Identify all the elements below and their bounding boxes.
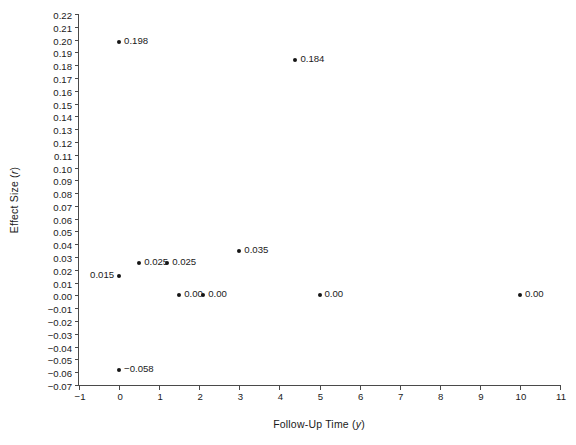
y-axis-tick: −0.05 — [75, 359, 79, 360]
y-axis-tick: 0.07 — [75, 206, 79, 207]
x-axis-tick: 0 — [119, 385, 120, 390]
y-axis-tick: 0.16 — [75, 91, 79, 92]
y-axis-tick-label: 0.08 — [53, 189, 72, 200]
x-axis-tick-label: 6 — [358, 391, 363, 402]
x-axis-tick-label: 0 — [117, 391, 122, 402]
data-point-marker — [237, 249, 241, 253]
y-axis-tick-label: 0.12 — [53, 137, 72, 148]
y-axis-tick: −0.06 — [75, 372, 79, 373]
x-axis-tick: −1 — [79, 385, 80, 390]
y-axis-tick: −0.02 — [75, 321, 79, 322]
y-axis-tick-label: −0.05 — [48, 355, 72, 366]
y-axis-tick-label: 0.02 — [53, 265, 72, 276]
y-axis-tick-label: 0.18 — [53, 61, 72, 72]
y-axis-tick-label: −0.03 — [48, 329, 72, 340]
y-axis-tick: −0.04 — [75, 347, 79, 348]
y-axis-title-symbol: r — [8, 170, 20, 174]
data-point-marker — [165, 261, 169, 265]
y-axis-tick-label: 0.15 — [53, 99, 72, 110]
data-point-marker — [117, 274, 121, 278]
y-axis-tick: 0.08 — [75, 193, 79, 194]
y-axis-tick: 0.11 — [75, 155, 79, 156]
y-axis-tick: 0.02 — [75, 270, 79, 271]
x-axis-title-tail: ) — [361, 418, 365, 430]
y-axis-tick: 0.19 — [75, 52, 79, 53]
x-axis-tick-label: 1 — [157, 391, 162, 402]
x-axis-tick: 11 — [560, 385, 561, 390]
y-axis-tick-label: 0.14 — [53, 112, 72, 123]
y-axis-tick: 0.20 — [75, 40, 79, 41]
data-point-marker — [201, 293, 205, 297]
y-axis-tick-label: 0.05 — [53, 227, 72, 238]
x-axis-title: Follow-Up Time (y) — [78, 418, 560, 430]
x-axis-tick: 8 — [440, 385, 441, 390]
y-axis-tick-label: 0.20 — [53, 35, 72, 46]
plot-area: 0.220.210.200.190.180.170.160.150.140.13… — [78, 14, 560, 386]
x-axis-tick: 4 — [279, 385, 280, 390]
y-axis-title-tail: ) — [8, 167, 20, 171]
data-point-label: 0.035 — [244, 244, 268, 255]
data-point-marker — [117, 368, 121, 372]
x-axis-tick: 9 — [480, 385, 481, 390]
data-point-label: 0.198 — [124, 35, 148, 46]
x-axis-tick: 3 — [239, 385, 240, 390]
data-point-marker — [137, 261, 141, 265]
y-axis-tick: 0.22 — [75, 14, 79, 15]
y-axis-tick: 0.03 — [75, 257, 79, 258]
data-point-marker — [177, 293, 181, 297]
y-axis-tick-label: −0.02 — [48, 317, 72, 328]
data-point-marker — [117, 40, 121, 44]
y-axis-title: Effect Size (r) — [0, 0, 28, 400]
x-axis-tick: 2 — [199, 385, 200, 390]
y-axis-title-text: Effect Size ( — [8, 174, 20, 233]
data-point-label: 0.00 — [525, 288, 544, 299]
y-axis-tick: 0.14 — [75, 116, 79, 117]
y-axis-tick-label: 0.07 — [53, 201, 72, 212]
y-axis-tick-label: 0.22 — [53, 10, 72, 21]
y-axis-tick-label: 0.00 — [53, 291, 72, 302]
x-axis-tick-label: 4 — [278, 391, 283, 402]
data-point-label: 0.00 — [208, 288, 227, 299]
y-axis-tick-label: −0.07 — [48, 381, 72, 392]
x-axis-tick: 5 — [320, 385, 321, 390]
x-axis-tick-label: 9 — [478, 391, 483, 402]
y-axis-tick-label: 0.13 — [53, 125, 72, 136]
y-axis-tick-label: 0.06 — [53, 214, 72, 225]
data-point-label: 0.015 — [90, 269, 114, 280]
y-axis-tick-label: 0.03 — [53, 253, 72, 264]
x-axis-title-text: Follow-Up Time ( — [273, 418, 356, 430]
data-point-label: 0.184 — [300, 53, 324, 64]
y-axis-tick: 0.10 — [75, 168, 79, 169]
y-axis-tick: 0.21 — [75, 27, 79, 28]
y-axis-tick: 0.17 — [75, 78, 79, 79]
y-axis-tick-label: 0.11 — [54, 150, 72, 161]
y-axis-tick-label: −0.06 — [48, 368, 72, 379]
x-axis-tick-label: 11 — [556, 391, 566, 402]
y-axis-tick: 0.15 — [75, 104, 79, 105]
y-axis-tick: −0.03 — [75, 334, 79, 335]
x-axis-tick-label: 3 — [238, 391, 243, 402]
scatter-plot-figure: Effect Size (r) 0.220.210.200.190.180.17… — [0, 0, 576, 445]
y-axis-tick: 0.06 — [75, 219, 79, 220]
y-axis-tick-label: 0.04 — [53, 240, 72, 251]
x-axis-tick-label: 8 — [438, 391, 443, 402]
y-axis-tick: 0.18 — [75, 65, 79, 66]
x-axis-tick-label: 10 — [516, 391, 527, 402]
x-axis-tick: 10 — [520, 385, 521, 390]
x-axis-tick-label: −1 — [75, 391, 86, 402]
y-axis-tick: 0.12 — [75, 142, 79, 143]
data-point-label: −0.058 — [124, 363, 154, 374]
x-axis-tick-label: 2 — [198, 391, 203, 402]
y-axis-tick: −0.01 — [75, 308, 79, 309]
y-axis-tick: 0.00 — [75, 295, 79, 296]
y-axis-tick-label: 0.01 — [53, 278, 72, 289]
data-point-marker — [518, 293, 522, 297]
data-point-marker — [293, 58, 297, 62]
y-axis-tick-label: 0.16 — [53, 86, 72, 97]
x-axis-tick: 1 — [159, 385, 160, 390]
y-axis-tick: 0.09 — [75, 180, 79, 181]
y-axis-tick-label: −0.04 — [48, 342, 72, 353]
x-axis-tick: 6 — [360, 385, 361, 390]
data-point-label: 0.00 — [325, 288, 344, 299]
x-axis-tick: 7 — [400, 385, 401, 390]
